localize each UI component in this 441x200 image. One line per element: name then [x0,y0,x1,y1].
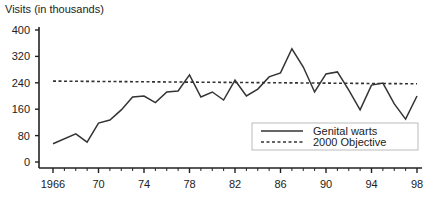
x-tick-label: 1966 [41,178,65,190]
x-tick-label: 74 [138,178,150,190]
x-tick-label: 90 [320,178,332,190]
x-axis: 19667074788286909498 [39,168,423,190]
legend: Genital warts 2000 Objective [252,123,418,150]
y-axis: 080160240320400 [12,24,39,168]
x-tick-label: 70 [92,178,104,190]
legend-label-2000-objective: 2000 Objective [313,136,386,148]
x-tick-label: 78 [183,178,195,190]
y-tick-label: 0 [24,156,30,168]
x-tick-label: 98 [411,178,423,190]
y-tick-label: 320 [12,50,30,62]
y-tick-label: 80 [18,130,30,142]
y-tick-label: 400 [12,24,30,36]
chart-svg: Visits (in thousands) 080160240320400 19… [0,0,441,200]
y-tick-label: 240 [12,77,30,89]
x-tick-label: 86 [274,178,286,190]
y-tick-label: 160 [12,103,30,115]
x-tick-label: 82 [229,178,241,190]
line-chart: Visits (in thousands) 080160240320400 19… [0,0,441,200]
y-axis-label: Visits (in thousands) [5,3,104,15]
x-tick-label: 94 [365,178,377,190]
